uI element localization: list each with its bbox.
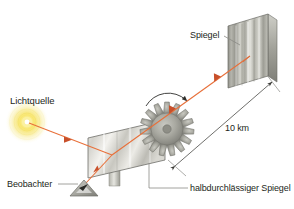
fizeau-experiment-diagram: Lichtquelle Spiegel Beobachter halbdurch… <box>0 0 294 209</box>
label-half-silvered-mirror: halbdurchlässiger Spiegel <box>190 184 291 193</box>
label-mirror: Spiegel <box>190 31 219 40</box>
label-distance: 10 km <box>225 124 249 133</box>
label-observer: Beobachter <box>7 180 52 189</box>
observer-eye <box>70 180 98 196</box>
far-mirror <box>228 14 277 88</box>
label-light-source: Lichtquelle <box>10 96 54 106</box>
leader-line-half-mirror <box>149 163 188 188</box>
light-source <box>5 100 49 144</box>
